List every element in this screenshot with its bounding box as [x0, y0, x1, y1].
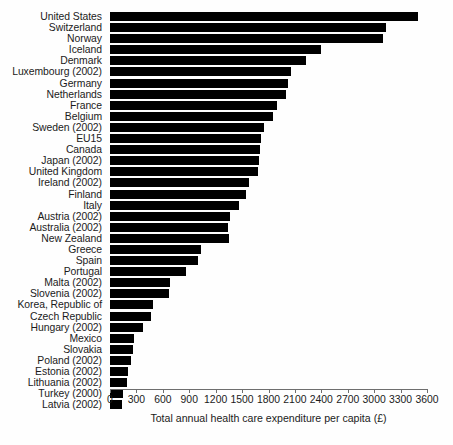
bar	[110, 312, 151, 321]
category-label: Mexico	[0, 333, 105, 344]
category-label: Greece	[0, 244, 105, 255]
bar-row	[110, 211, 427, 222]
category-label: Belgium	[0, 111, 105, 122]
x-axis-tick-label: 3600	[415, 394, 438, 405]
x-axis-tick	[163, 389, 164, 393]
bar	[110, 289, 169, 298]
bar	[110, 67, 291, 76]
bar	[110, 34, 383, 43]
category-label: Slovenia (2002)	[0, 288, 105, 299]
category-axis-labels: United StatesSwitzerlandNorwayIcelandDen…	[0, 11, 105, 389]
bar	[110, 45, 321, 54]
x-axis-tick	[216, 389, 217, 393]
bar	[110, 90, 286, 99]
bar-row	[110, 44, 427, 55]
bar-row	[110, 22, 427, 33]
x-axis-tick-label: 3300	[389, 394, 412, 405]
bar-row	[110, 33, 427, 44]
x-axis-title: Total annual health care expenditure per…	[110, 412, 427, 424]
bar-row	[110, 66, 427, 77]
bar-row	[110, 311, 427, 322]
bar-row	[110, 355, 427, 366]
bar	[110, 101, 277, 110]
bar-row	[110, 177, 427, 188]
bar	[110, 112, 273, 121]
bar-row	[110, 166, 427, 177]
bar-row	[110, 288, 427, 299]
x-axis-tick-label: 2400	[310, 394, 333, 405]
bar-row	[110, 266, 427, 277]
bar	[110, 356, 131, 365]
category-label: Finland	[0, 189, 105, 200]
category-label: Austria (2002)	[0, 211, 105, 222]
x-axis-tick	[295, 389, 296, 393]
category-label: Netherlands	[0, 89, 105, 100]
x-axis-tick	[321, 389, 322, 393]
bar-row	[110, 11, 427, 22]
bar-row	[110, 377, 427, 388]
bar	[110, 378, 127, 387]
category-label: Iceland	[0, 44, 105, 55]
x-axis-tick	[242, 389, 243, 393]
bar-row	[110, 89, 427, 100]
bar	[110, 234, 229, 243]
bar	[110, 190, 246, 199]
bar	[110, 245, 201, 254]
category-label: Turkey (2000)	[0, 388, 105, 399]
x-axis-tick	[269, 389, 270, 393]
category-label: Slovakia	[0, 344, 105, 355]
category-label: Japan (2002)	[0, 155, 105, 166]
x-axis-tick	[374, 389, 375, 393]
category-label: Switzerland	[0, 22, 105, 33]
bar	[110, 156, 259, 165]
bar	[110, 12, 418, 21]
bar-row	[110, 333, 427, 344]
category-label: Hungary (2002)	[0, 322, 105, 333]
bar-row	[110, 55, 427, 66]
bar	[110, 323, 143, 332]
category-label: Denmark	[0, 55, 105, 66]
category-label: Czech Republic	[0, 311, 105, 322]
x-axis-tick-label: 0	[107, 394, 113, 405]
x-axis-tick	[427, 389, 428, 393]
category-label: Poland (2002)	[0, 355, 105, 366]
category-label: Latvia (2002)	[0, 399, 105, 410]
category-label: France	[0, 100, 105, 111]
x-axis-tick	[189, 389, 190, 393]
category-label: Spain	[0, 255, 105, 266]
category-label: Ireland (2002)	[0, 177, 105, 188]
bar	[110, 345, 133, 354]
bar-row	[110, 155, 427, 166]
bar-row	[110, 299, 427, 310]
bar	[110, 223, 228, 232]
bar	[110, 256, 198, 265]
bar	[110, 367, 128, 376]
bar	[110, 23, 386, 32]
bar-row	[110, 133, 427, 144]
x-axis-tick-label: 2700	[336, 394, 359, 405]
x-axis-tick-label: 600	[154, 394, 171, 405]
category-label: Lithuania (2002)	[0, 377, 105, 388]
bar	[110, 178, 249, 187]
bar	[110, 267, 186, 276]
bar-row	[110, 189, 427, 200]
x-axis-tick-label: 1800	[257, 394, 280, 405]
bar-row	[110, 322, 427, 333]
bar-row	[110, 222, 427, 233]
bar	[110, 278, 170, 287]
bar-row	[110, 200, 427, 211]
category-label: Portugal	[0, 266, 105, 277]
bar	[110, 56, 306, 65]
bar-row	[110, 122, 427, 133]
bar-row	[110, 100, 427, 111]
category-label: Sweden (2002)	[0, 122, 105, 133]
bar-row	[110, 144, 427, 155]
x-axis-tick	[110, 389, 111, 393]
category-label: United Kingdom	[0, 166, 105, 177]
plot-area	[110, 11, 427, 389]
category-label: United States	[0, 11, 105, 22]
bar-chart: United StatesSwitzerlandNorwayIcelandDen…	[0, 0, 453, 445]
bar-row	[110, 255, 427, 266]
x-axis-tick-label: 2100	[283, 394, 306, 405]
category-label: Germany	[0, 78, 105, 89]
